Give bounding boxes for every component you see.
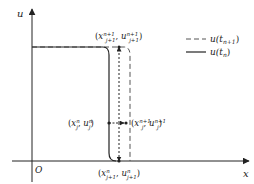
label-top-point: (xn+1j+1, un+1j+1) [95, 31, 142, 44]
point-bottom [117, 159, 120, 162]
label-left-point: (xnj, unj) [68, 118, 94, 131]
diagram-canvas: u x O (xn+1j+1, un+1j+1) (xnj, unj) (xn+… [0, 0, 254, 184]
label-right-point: (xn+1j, un+1j) [131, 118, 166, 131]
point-left [107, 121, 110, 124]
point-top [117, 45, 120, 48]
curve-u-tn1-dashed [32, 47, 130, 161]
origin-label: O [35, 165, 43, 175]
curve-u-tn-solid [32, 47, 116, 161]
legend-dashed-label: u(tn+1) [210, 34, 239, 45]
legend-solid-label: u(tn) [210, 47, 230, 58]
legend: u(tn+1) u(tn) [186, 34, 239, 58]
point-right [124, 121, 127, 124]
x-axis-label: x [243, 168, 249, 179]
label-bottom-point: (xnj+1, unj+1) [98, 168, 140, 181]
y-axis-label: u [17, 8, 23, 19]
